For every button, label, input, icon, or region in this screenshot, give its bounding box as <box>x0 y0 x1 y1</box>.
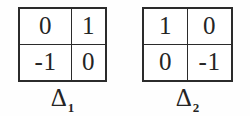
matrix-cell-r0c0: 1 <box>143 8 188 45</box>
matrix-cell-r0c0: 0 <box>19 8 72 45</box>
figure-canvas: 0 1 -1 0 Δ1 1 0 0 -1 <box>0 0 250 116</box>
matrix-row: 0 1 <box>19 8 106 45</box>
delta-subscript: 1 <box>68 100 75 115</box>
matrix-cell-r1c1: -1 <box>188 45 233 82</box>
matrix-cell-r0c1: 0 <box>188 8 233 45</box>
delta-subscript: 2 <box>193 100 200 115</box>
matrix-label-1: Δ1 <box>18 85 107 114</box>
matrix-grid-1: 0 1 -1 0 <box>18 7 107 82</box>
matrix-label-2: Δ2 <box>142 85 233 114</box>
matrix-cell-r0c1: 1 <box>72 8 107 45</box>
matrix-row: -1 0 <box>19 45 106 82</box>
matrix-cell-r1c1: 0 <box>72 45 107 82</box>
matrix-block-1: 0 1 -1 0 Δ1 <box>18 7 107 114</box>
matrix-cell-r1c0: 0 <box>143 45 188 82</box>
delta-symbol: Δ <box>51 84 67 111</box>
matrix-grid-2: 1 0 0 -1 <box>142 7 233 82</box>
delta-symbol: Δ <box>176 84 192 111</box>
matrix-row: 1 0 <box>143 8 232 45</box>
matrix-cell-r1c0: -1 <box>19 45 72 82</box>
matrix-block-2: 1 0 0 -1 Δ2 <box>142 7 233 114</box>
matrix-row: 0 -1 <box>143 45 232 82</box>
